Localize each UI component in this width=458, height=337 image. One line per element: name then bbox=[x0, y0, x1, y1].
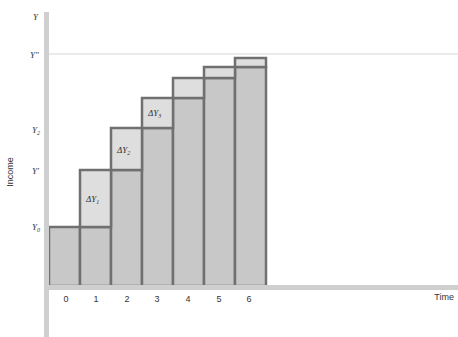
tick-3: 3 bbox=[154, 294, 159, 304]
tick-2: 2 bbox=[124, 294, 129, 304]
increment-6 bbox=[235, 58, 266, 67]
bar-5 bbox=[204, 78, 235, 286]
x-axis bbox=[44, 285, 458, 290]
y-double-prime-label: Y″ bbox=[30, 50, 39, 60]
bar-0 bbox=[49, 227, 80, 286]
tick-1: 1 bbox=[93, 294, 98, 304]
x-axis-title: Time bbox=[434, 292, 454, 302]
y2-label: Y2 bbox=[32, 125, 40, 136]
y-axis-title: Income bbox=[5, 157, 15, 187]
tick-4: 4 bbox=[185, 294, 190, 304]
bar-6 bbox=[235, 67, 266, 286]
y0-label: Y0 bbox=[32, 222, 40, 233]
bar-1 bbox=[80, 227, 111, 286]
y-axis-symbol: Y bbox=[33, 12, 39, 22]
x-tick-labels: 0 1 2 3 4 5 6 bbox=[63, 294, 251, 304]
tick-6: 6 bbox=[246, 294, 251, 304]
multiplier-diagram: ΔY1 ΔY2 ΔY3 Y Y″ Y2 Y′ Y0 Income 0 1 2 3… bbox=[0, 0, 458, 337]
bar-3 bbox=[142, 128, 173, 286]
tick-5: 5 bbox=[216, 294, 221, 304]
increment-5 bbox=[204, 67, 235, 78]
bar-2 bbox=[111, 170, 142, 286]
increment-4 bbox=[173, 78, 204, 98]
tick-0: 0 bbox=[63, 294, 68, 304]
bar-4 bbox=[173, 98, 204, 286]
y-prime-label: Y′ bbox=[32, 166, 40, 176]
